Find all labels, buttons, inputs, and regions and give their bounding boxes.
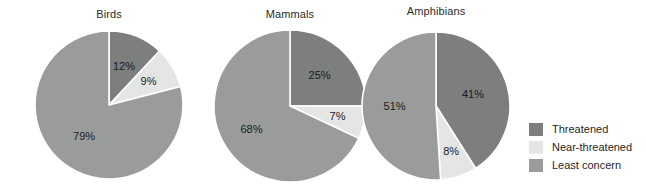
legend-item-least-concern: Least concern — [529, 156, 644, 174]
pie-chart-figure: Birds Mammals Amphibians 12%9%79%25%7%68… — [0, 0, 646, 195]
slice-value-label: 8% — [443, 145, 459, 157]
slice-value-label: 51% — [384, 100, 406, 112]
slice-value-label: 12% — [113, 60, 135, 72]
legend-label-least-concern: Least concern — [552, 159, 621, 172]
chart-legend: Threatened Near-threatened Least concern — [529, 120, 644, 174]
slice-value-label: 41% — [462, 88, 484, 100]
pie-amphibians: 41%8%51% — [362, 32, 510, 180]
legend-label-near-threatened: Near-threatened — [552, 141, 632, 154]
pie-slice-threatened[interactable] — [290, 30, 366, 106]
pie-mammals: 25%7%68% — [214, 30, 366, 182]
slice-value-label: 68% — [240, 123, 262, 135]
legend-swatch-near-threatened — [529, 141, 543, 154]
slice-value-label: 25% — [309, 69, 331, 81]
slice-value-label: 9% — [141, 75, 157, 87]
slice-value-label: 7% — [330, 110, 346, 122]
legend-item-threatened: Threatened — [529, 120, 644, 138]
legend-item-near-threatened: Near-threatened — [529, 138, 644, 156]
pie-birds: 12%9%79% — [35, 31, 183, 179]
legend-swatch-threatened — [529, 123, 543, 136]
legend-label-threatened: Threatened — [552, 123, 608, 136]
slice-value-label: 79% — [73, 130, 95, 142]
legend-swatch-least-concern — [529, 159, 543, 172]
